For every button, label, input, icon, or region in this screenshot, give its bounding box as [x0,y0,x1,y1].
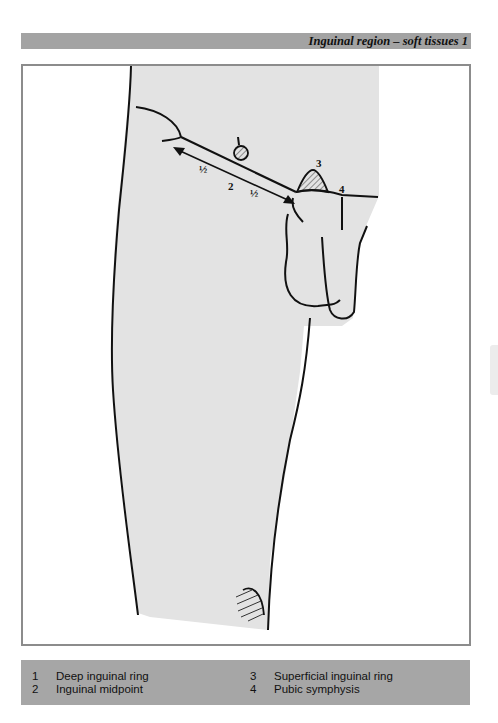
legend-column-right: 3 Superficial inguinal ring 4 Pubic symp… [239,670,393,696]
chapter-side-tab [490,345,498,395]
inguinal-diagram: 3 4 2 ½ ½ [0,0,498,723]
label-3: 3 [316,157,322,169]
figure-legend: 1 Deep inguinal ring 2 Inguinal midpoint… [21,660,470,705]
legend-item: 2 Inguinal midpoint [21,683,149,696]
legend-item: 3 Superficial inguinal ring [239,670,393,683]
label-2: 2 [228,180,234,192]
label-half-left: ½ [199,163,207,175]
deep-ring-marker [234,146,248,160]
label-half-right: ½ [250,187,258,199]
legend-column-left: 1 Deep inguinal ring 2 Inguinal midpoint [21,670,149,696]
legend-item: 1 Deep inguinal ring [21,670,149,683]
label-4: 4 [339,183,345,195]
legend-item: 4 Pubic symphysis [239,683,393,696]
